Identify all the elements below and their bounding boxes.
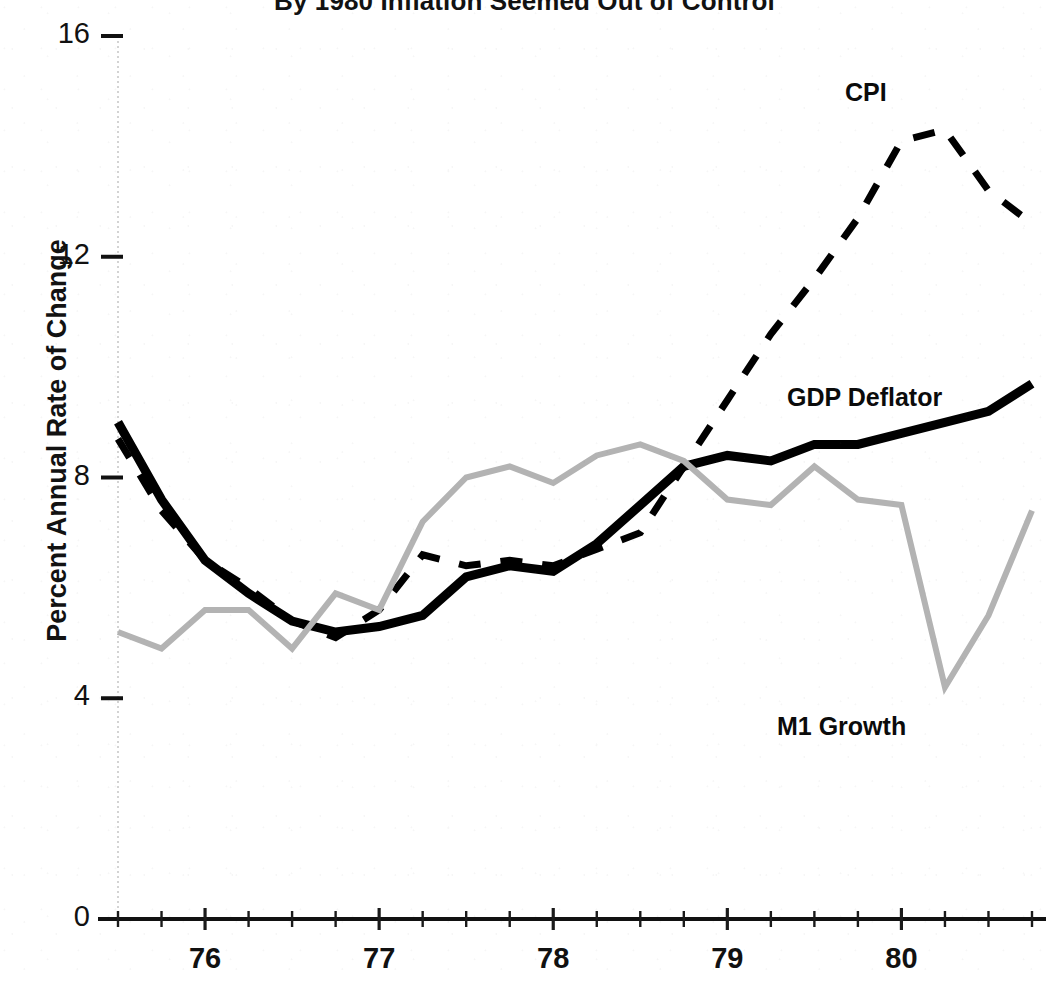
plot-area [0,0,1049,988]
series-label-cpi: CPI [845,78,887,107]
series-label-gdp-deflator: GDP Deflator [787,383,942,412]
inflation-chart-figure: By 1980 Inflation Seemed Out of Control … [0,0,1049,988]
series-label-m1-growth: M1 Growth [777,712,906,741]
